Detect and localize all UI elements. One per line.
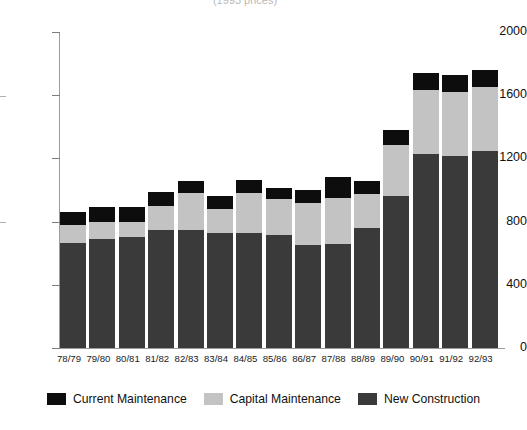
- segment-capital-maintenance: [354, 194, 380, 228]
- bar-88-89[interactable]: [354, 181, 380, 348]
- y-axis-tick: [52, 348, 60, 349]
- segment-current-maintenance: [60, 212, 86, 225]
- segment-capital-maintenance: [60, 225, 86, 243]
- segment-new-construction: [178, 230, 204, 349]
- x-axis-line: [59, 348, 505, 349]
- segment-capital-maintenance: [236, 193, 262, 233]
- segment-capital-maintenance: [119, 222, 145, 238]
- bar-91-92[interactable]: [442, 75, 468, 348]
- bar-86-87[interactable]: [295, 190, 321, 348]
- segment-capital-maintenance: [383, 145, 409, 196]
- legend-item-capital-maintenance[interactable]: Capital Maintenance: [204, 393, 341, 405]
- segment-current-maintenance: [442, 75, 468, 92]
- segment-new-construction: [60, 243, 86, 348]
- segment-new-construction: [89, 239, 115, 348]
- bar-89-90[interactable]: [383, 130, 409, 348]
- legend-label-new-construction: New Construction: [384, 393, 480, 405]
- plot-area: [59, 32, 504, 348]
- black-swatch-icon: [47, 393, 66, 405]
- segment-new-construction: [266, 235, 292, 348]
- segment-current-maintenance: [236, 180, 262, 193]
- segment-capital-maintenance: [295, 203, 321, 245]
- bar-87-88[interactable]: [325, 177, 351, 348]
- chart-subtitle-clipped: (1993 prices): [150, 0, 340, 7]
- stray-tick-upper: [0, 96, 6, 97]
- dark-gray-swatch-icon: [358, 393, 377, 405]
- legend-label-capital-maintenance: Capital Maintenance: [230, 393, 341, 405]
- segment-current-maintenance: [266, 188, 292, 200]
- segment-current-maintenance: [148, 192, 174, 205]
- segment-capital-maintenance: [413, 90, 439, 153]
- bar-85-86[interactable]: [266, 188, 292, 348]
- legend-item-current-maintenance[interactable]: Current Maintenance: [47, 393, 187, 405]
- segment-capital-maintenance: [178, 193, 204, 229]
- segment-current-maintenance: [89, 207, 115, 222]
- segment-new-construction: [119, 237, 145, 348]
- segment-current-maintenance: [383, 130, 409, 145]
- bar-92-93[interactable]: [472, 70, 498, 348]
- segment-capital-maintenance: [266, 199, 292, 235]
- segment-capital-maintenance: [472, 87, 498, 150]
- segment-new-construction: [472, 151, 498, 349]
- legend-item-new-construction[interactable]: New Construction: [358, 393, 480, 405]
- segment-new-construction: [236, 233, 262, 348]
- x-axis-tick-label: 92/93: [464, 352, 498, 366]
- chart-subtitle-text: (1993 prices): [150, 0, 340, 6]
- segment-new-construction: [148, 230, 174, 348]
- segment-current-maintenance: [178, 181, 204, 194]
- segment-current-maintenance: [295, 190, 321, 203]
- segment-capital-maintenance: [207, 209, 233, 233]
- segment-current-maintenance: [354, 181, 380, 194]
- bar-79-80[interactable]: [89, 207, 115, 348]
- segment-capital-maintenance: [89, 222, 115, 239]
- segment-new-construction: [295, 245, 321, 348]
- bar-81-82[interactable]: [148, 192, 174, 348]
- light-gray-swatch-icon: [204, 393, 223, 405]
- segment-new-construction: [383, 196, 409, 348]
- segment-new-construction: [354, 228, 380, 348]
- segment-new-construction: [325, 244, 351, 348]
- segment-new-construction: [413, 154, 439, 348]
- bar-84-85[interactable]: [236, 180, 262, 348]
- segment-current-maintenance: [207, 196, 233, 209]
- bar-90-91[interactable]: [413, 73, 439, 348]
- segment-current-maintenance: [472, 70, 498, 87]
- chart-legend: Current Maintenance Capital Maintenance …: [0, 390, 527, 408]
- segment-current-maintenance: [119, 207, 145, 221]
- stray-tick-lower: [0, 222, 6, 223]
- segment-current-maintenance: [325, 177, 351, 198]
- segment-new-construction: [442, 156, 468, 348]
- x-axis-labels: 78/7979/8080/8181/8282/8383/8484/8585/86…: [59, 352, 505, 368]
- legend-label-current-maintenance: Current Maintenance: [73, 393, 187, 405]
- bar-78-79[interactable]: [60, 212, 86, 348]
- segment-capital-maintenance: [325, 198, 351, 244]
- bar-82-83[interactable]: [178, 181, 204, 348]
- segment-capital-maintenance: [148, 206, 174, 230]
- segment-capital-maintenance: [442, 92, 468, 156]
- segment-current-maintenance: [413, 73, 439, 90]
- stacked-bar-chart: (1993 prices) 0400800120016002000 78/797…: [0, 0, 527, 430]
- segment-new-construction: [207, 233, 233, 348]
- bar-80-81[interactable]: [119, 207, 145, 348]
- bar-83-84[interactable]: [207, 196, 233, 348]
